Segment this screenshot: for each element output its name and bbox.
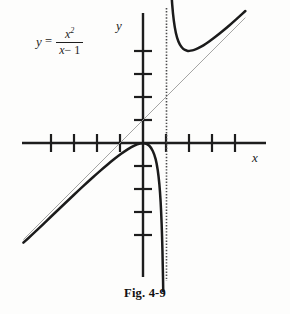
numerator-exponent: 2 [70, 26, 74, 35]
fraction-denominator: x− 1 [56, 43, 83, 57]
figure-caption: Fig. 4-9 [0, 286, 290, 301]
curve-right-branch [170, 0, 245, 51]
equation-fraction: x2 x− 1 [56, 27, 83, 56]
denominator-remainder: − 1 [64, 43, 80, 57]
equation-equals-sign: = [45, 34, 52, 49]
equation-lhs: y [36, 34, 42, 50]
figure-container: y = x2 x− 1 y x Fig. 4-9 [0, 0, 290, 314]
fraction-numerator: x2 [62, 27, 77, 42]
origin-marker [142, 142, 144, 144]
y-axis-label: y [116, 18, 122, 34]
x-axis-label: x [252, 150, 258, 166]
equation-label: y = x2 x− 1 [36, 27, 83, 56]
